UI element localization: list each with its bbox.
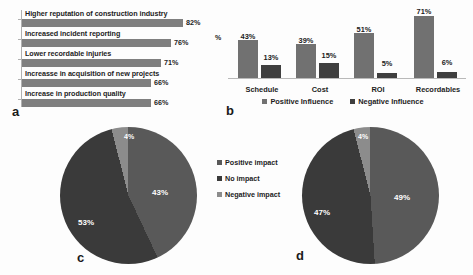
chart-b-bar-positive — [238, 40, 258, 78]
legend-label: Negative impact — [225, 190, 280, 199]
chart-a-value-label: 71% — [164, 58, 178, 67]
panel-letter-d: d — [296, 249, 304, 262]
chart-b-bar-positive — [296, 44, 316, 78]
chart-b-category-label: Recordables — [407, 85, 469, 94]
chart-d-value-label-negative: 4% — [358, 133, 368, 140]
chart-b-bar-positive — [414, 16, 434, 78]
chart-b-category-label: Cost — [291, 85, 349, 94]
chart-b-group: 43% 13% Schedule — [233, 0, 291, 98]
chart-a-bar — [22, 79, 151, 87]
chart-a-value-label: 66% — [154, 78, 168, 87]
legend-label: Positive Influence — [270, 97, 333, 106]
legend-swatch-icon — [217, 160, 222, 165]
chart-b-bar-negative — [261, 65, 281, 78]
axis-tick — [18, 59, 21, 60]
axis-tick — [18, 99, 21, 100]
axis-tick — [18, 19, 21, 20]
legend-item-negative-influence: Negative Influence — [350, 97, 423, 106]
chart-b-category-label: Schedule — [233, 85, 291, 94]
panel-letter-b: b — [226, 104, 234, 117]
chart-b-value-label: 5% — [374, 59, 400, 68]
chart-d-value-label-no-impact: 47% — [314, 208, 330, 217]
chart-a-row: Increase in production quality 66% — [21, 90, 207, 109]
chart-b-group: 51% 5% ROI — [349, 0, 407, 98]
chart-b-legend: Positive Influence Negative Influence — [213, 97, 473, 106]
pie-legend: Positive impact No impact Negative impac… — [217, 158, 280, 199]
chart-b-bar-negative — [377, 73, 397, 78]
chart-b-bar-negative — [437, 72, 457, 78]
chart-b-value-label: 15% — [316, 51, 342, 60]
chart-b-axis-label: % — [215, 34, 221, 41]
chart-a-value-label: 66% — [154, 98, 168, 107]
chart-a-category-label: Increased incident reporting — [25, 29, 120, 38]
chart-c-pie: 43% 53% 4% c — [0, 118, 213, 275]
chart-a-row: Higher reputation of construction indust… — [21, 10, 207, 29]
chart-a-value-label: 82% — [186, 18, 200, 27]
chart-c-value-label-negative: 4% — [124, 133, 134, 140]
legend-swatch-icon — [350, 99, 355, 104]
legend-swatch-icon — [217, 192, 222, 197]
chart-b-grouped-bar: % 43% 13% Schedule 39% 15% Cost 51% 5% R… — [213, 0, 473, 118]
legend-swatch-icon — [217, 176, 222, 181]
figure-root: Higher reputation of construction indust… — [0, 0, 473, 275]
legend-label: Positive impact — [225, 158, 278, 167]
legend-item-no-impact: No impact — [217, 174, 280, 183]
axis-tick — [18, 79, 21, 80]
chart-b-bar-negative — [319, 63, 339, 78]
chart-a-bar — [22, 59, 161, 67]
chart-a-category-label: Increase in production quality — [25, 89, 126, 98]
legend-label: Negative Influence — [358, 97, 423, 106]
chart-a-category-label: Increasse in acquisition of new projects — [25, 69, 159, 78]
panel-letter-c: c — [77, 251, 84, 264]
chart-b-value-label: 13% — [258, 53, 284, 62]
chart-c-value-label-positive: 43% — [152, 188, 168, 197]
chart-b-bar-positive — [354, 33, 374, 78]
chart-b-value-label: 71% — [411, 7, 437, 16]
chart-a-category-label: Lower recordable injuries — [25, 49, 111, 58]
chart-a-row: Increased incident reporting 76% — [21, 30, 207, 49]
chart-a-category-label: Higher reputation of construction indust… — [25, 9, 167, 18]
chart-a-row: Lower recordable injuries 71% — [21, 50, 207, 69]
chart-b-group: 71% 6% Recordables — [407, 0, 469, 98]
chart-c-pie-circle — [60, 127, 197, 264]
chart-a-bar — [22, 99, 151, 107]
legend-swatch-icon — [262, 99, 267, 104]
chart-b-value-label: 6% — [434, 58, 460, 67]
chart-d-pie-circle — [302, 127, 439, 264]
chart-c-value-label-no-impact: 53% — [78, 218, 94, 227]
chart-a-bar — [22, 39, 171, 47]
chart-d-value-label-positive: 49% — [394, 193, 410, 202]
panel-letter-a: a — [12, 105, 19, 118]
chart-a-value-label: 76% — [174, 38, 188, 47]
legend-item-negative-impact: Negative impact — [217, 190, 280, 199]
chart-a-horizontal-bar: Higher reputation of construction indust… — [0, 0, 213, 118]
legend-label: No impact — [225, 174, 260, 183]
legend-item-positive-impact: Positive impact — [217, 158, 280, 167]
chart-b-group: 39% 15% Cost — [291, 0, 349, 98]
chart-a-row: Increasse in acquisition of new projects… — [21, 70, 207, 89]
chart-a-bar — [22, 19, 183, 27]
chart-d-pie: 49% 47% 4% d — [290, 118, 473, 275]
chart-b-category-label: ROI — [349, 85, 407, 94]
axis-tick — [18, 39, 21, 40]
legend-item-positive-influence: Positive Influence — [262, 97, 333, 106]
